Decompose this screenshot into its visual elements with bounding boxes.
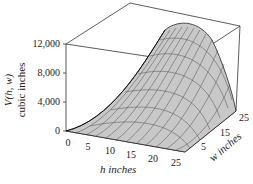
z-axis-label-line2: cubic inches — [15, 63, 27, 118]
surface — [66, 23, 236, 152]
surface-plot: 0 4,000 8,000 12,000 V(h, w) cubic inche… — [0, 0, 253, 184]
w-tick-5: 5 — [201, 141, 206, 152]
z-axis — [63, 44, 66, 131]
z-axis-label-line1: V(h, w) — [2, 73, 15, 106]
h-tick-25: 25 — [171, 157, 181, 168]
h-tick-0: 0 — [66, 137, 71, 148]
h-axis-label: h inches — [100, 163, 136, 175]
h-tick-5: 5 — [86, 141, 91, 152]
h-tick-20: 20 — [148, 153, 158, 164]
h-tick-15: 15 — [126, 149, 136, 160]
z-tick-12000: 12,000 — [33, 38, 61, 49]
h-tick-10: 10 — [105, 145, 115, 156]
z-tick-4000: 4,000 — [38, 96, 61, 107]
w-tick-25: 25 — [239, 112, 249, 123]
z-tick-8000: 8,000 — [38, 67, 61, 78]
z-tick-0: 0 — [55, 125, 60, 136]
